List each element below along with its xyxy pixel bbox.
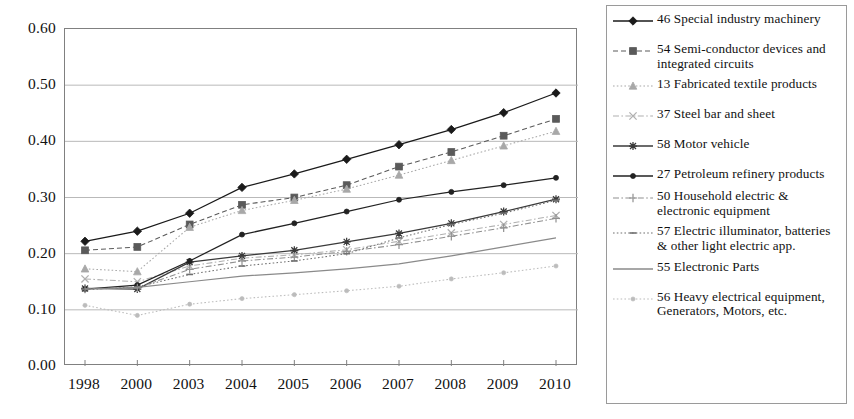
marker-diamond [238, 183, 246, 191]
legend-swatch-icon [611, 169, 655, 183]
marker-square [82, 247, 89, 254]
x-tick-label: 2000 [120, 375, 152, 393]
marker-asterisk [629, 142, 637, 150]
legend-swatch-icon [611, 109, 655, 123]
legend: 46 Special industry machinery54 Semi-con… [606, 5, 847, 404]
legend-key-54 [611, 44, 655, 58]
marker-dot [502, 271, 506, 275]
legend-item-54[interactable]: 54 Semi-conductor devices and integrated… [611, 42, 840, 71]
marker-asterisk [343, 238, 351, 246]
legend-item-27[interactable]: 27 Petroleum refinery products [611, 167, 840, 183]
series-line [85, 266, 556, 315]
legend-label: 58 Motor vehicle [655, 137, 749, 152]
legend-key-13 [611, 79, 655, 93]
marker-plus [500, 224, 508, 232]
legend-swatch-icon [611, 139, 655, 153]
marker-triangle [500, 142, 508, 149]
marker-asterisk [395, 229, 403, 237]
y-tick-label: 0.60 [28, 20, 56, 35]
y-tick-label: 0.20 [28, 245, 56, 260]
legend-key-57 [611, 226, 655, 240]
plot-svg [65, 29, 578, 366]
legend-label: 50 Household electric & electronic equip… [655, 189, 840, 218]
legend-swatch-icon [611, 191, 655, 205]
marker-plus-strokes [500, 224, 508, 232]
marker-dot [449, 277, 453, 281]
marker-circle [344, 209, 349, 214]
series-46 [81, 89, 560, 246]
legend-item-37[interactable]: 37 Steel bar and sheet [611, 107, 840, 123]
legend-label: 55 Electronic Parts [655, 260, 759, 275]
x-tick-label: 2005 [277, 375, 309, 393]
marker-circle [397, 197, 402, 202]
legend-item-46[interactable]: 46 Special industry machinery [611, 12, 840, 28]
marker-asterisk-strokes [343, 238, 351, 246]
marker-square [553, 115, 560, 122]
legend-label: 13 Fabricated textile products [655, 77, 817, 92]
marker-circle [501, 183, 506, 188]
x-tick-label: 2006 [330, 375, 362, 393]
marker-triangle [629, 82, 637, 89]
y-axis-labels: 0.600.500.400.300.200.100.00 [0, 0, 62, 419]
marker-triangle [81, 265, 89, 272]
marker-asterisk [500, 208, 508, 216]
marker-square [134, 244, 141, 251]
marker-square [500, 132, 507, 139]
x-tick-label: 2003 [173, 375, 205, 393]
series-57 [82, 200, 560, 289]
marker-triangle [552, 127, 560, 134]
marker-dot [240, 297, 244, 301]
marker-diamond [629, 17, 637, 25]
series-54 [82, 115, 560, 253]
marker-dot [188, 302, 192, 306]
legend-key-27 [611, 169, 655, 183]
marker-plus [629, 194, 637, 202]
legend-item-57[interactable]: 57 Electric illuminator, batteries & oth… [611, 224, 840, 253]
marker-diamond [185, 209, 193, 217]
marker-dot [631, 296, 635, 300]
marker-diamond [133, 227, 141, 235]
marker-asterisk-strokes [395, 229, 403, 237]
marker-diamond [499, 108, 507, 116]
legend-label: 46 Special industry machinery [655, 12, 821, 27]
legend-key-55 [611, 262, 655, 276]
marker-diamond [81, 237, 89, 245]
y-tick-label: 0.40 [28, 132, 56, 147]
x-tick-label: 2004 [225, 375, 257, 393]
chart-figure: 0.600.500.400.300.200.100.00 19982000200… [0, 0, 854, 419]
x-tick-label: 2010 [539, 375, 571, 393]
legend-item-56[interactable]: 56 Heavy electrical equipment, Generator… [611, 290, 840, 319]
marker-diamond [447, 125, 455, 133]
legend-item-13[interactable]: 13 Fabricated textile products [611, 77, 840, 93]
legend-item-55[interactable]: 55 Electronic Parts [611, 260, 840, 276]
marker-diamond [552, 89, 560, 97]
marker-dot [292, 293, 296, 297]
marker-circle [292, 221, 297, 226]
legend-label: 37 Steel bar and sheet [655, 107, 775, 122]
x-tick-label: 2007 [382, 375, 414, 393]
marker-asterisk-strokes [629, 142, 637, 150]
x-tick-label: 2008 [434, 375, 466, 393]
legend-swatch-icon [611, 79, 655, 93]
marker-dot [135, 313, 139, 317]
marker-plus-strokes [629, 194, 637, 202]
marker-dot [554, 264, 558, 268]
marker-triangle [448, 156, 456, 163]
x-axis-labels: 1998200020032004200520062007200820092010 [64, 375, 577, 405]
marker-diamond [342, 155, 350, 163]
legend-key-56 [611, 292, 655, 306]
legend-item-50[interactable]: 50 Household electric & electronic equip… [611, 189, 840, 218]
legend-item-58[interactable]: 58 Motor vehicle [611, 137, 840, 153]
x-tick-label: 2009 [487, 375, 519, 393]
marker-plus-strokes [552, 214, 560, 222]
legend-swatch-icon [611, 292, 655, 306]
y-tick-label: 0.10 [28, 301, 56, 316]
series-line [85, 93, 556, 241]
legend-key-50 [611, 191, 655, 205]
legend-swatch-icon [611, 14, 655, 28]
legend-label: 54 Semi-conductor devices and integrated… [655, 42, 840, 71]
y-tick-label: 0.30 [28, 189, 56, 204]
marker-asterisk [552, 195, 560, 203]
marker-plus [552, 214, 560, 222]
legend-key-46 [611, 14, 655, 28]
